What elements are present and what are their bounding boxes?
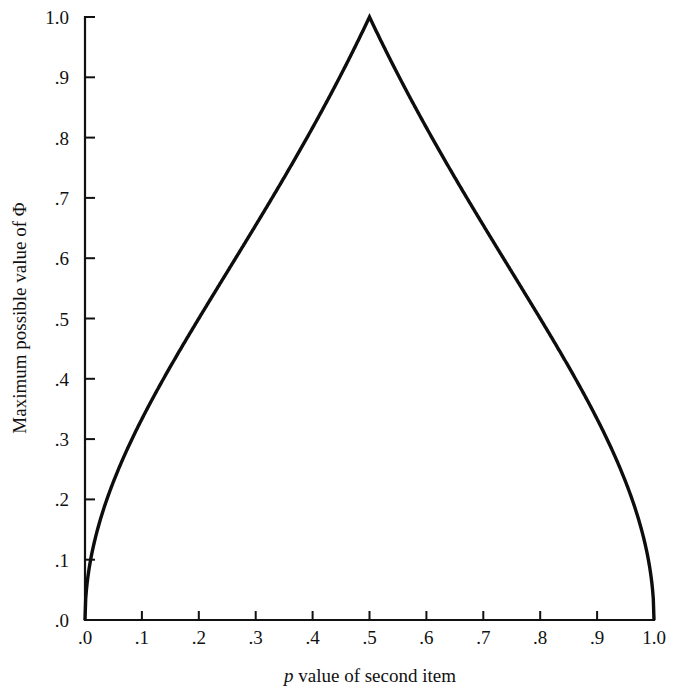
x-tick-label: .5 [362, 627, 376, 648]
x-tick-label: .3 [249, 627, 263, 648]
y-tick-label: .1 [55, 550, 69, 571]
y-tick-label: .6 [55, 248, 69, 269]
y-axis-title: Maximum possible value of Φ [9, 202, 30, 433]
x-tick-label: .9 [590, 627, 604, 648]
y-tick-label: .7 [55, 188, 69, 209]
y-tick-label: .2 [55, 489, 69, 510]
x-tick-label: .0 [78, 627, 92, 648]
x-tick-label: .4 [305, 627, 320, 648]
x-axis-title-variable: p [282, 665, 294, 686]
y-tick-label: .5 [55, 309, 69, 330]
x-tick-label: .7 [476, 627, 490, 648]
y-tick-label: .3 [55, 429, 69, 450]
y-tick-label: .9 [55, 67, 69, 88]
phi-symbol: Φ [9, 202, 30, 216]
y-tick-label: 1.0 [45, 7, 69, 28]
max-phi-chart: .0.1.2.3.4.5.6.7.8.91.0.0.1.2.3.4.5.6.7.… [0, 0, 687, 698]
x-tick-label: .8 [533, 627, 547, 648]
y-axis-title-text: Maximum possible value of [9, 216, 30, 433]
y-tick-label: .0 [55, 610, 69, 631]
y-tick-label: .4 [55, 369, 70, 390]
chart-background [0, 0, 687, 698]
y-tick-label: .8 [55, 128, 69, 149]
x-axis-title: p value of second item [282, 665, 456, 686]
x-tick-label: .1 [135, 627, 149, 648]
x-tick-label: 1.0 [642, 627, 666, 648]
x-axis-title-text: value of second item [293, 665, 456, 686]
x-tick-label: .6 [419, 627, 433, 648]
x-tick-label: .2 [192, 627, 206, 648]
